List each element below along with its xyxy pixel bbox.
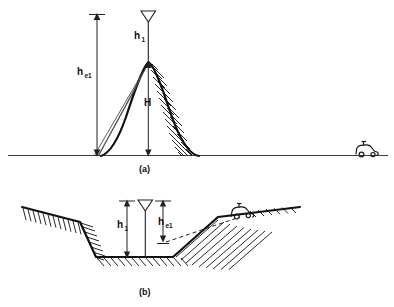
svg-text:h: h	[134, 30, 140, 41]
svg-text:h: h	[158, 216, 164, 227]
label-H-a: H	[144, 97, 151, 108]
dimension-H-a	[145, 61, 152, 157]
valley-hatch-floor	[97, 258, 188, 266]
label-he1-b: h e1	[158, 216, 173, 229]
antenna-dipole-icon-b	[138, 200, 153, 258]
panel-a-diagram: h 1 h e1 H (a)	[0, 0, 394, 180]
figure-root: h 1 h e1 H (a)	[0, 0, 394, 307]
svg-text:h: h	[77, 66, 83, 77]
label-he1-a: h e1	[77, 66, 92, 79]
label-h1-a: h 1	[134, 30, 146, 43]
panel-a-caption: (a)	[139, 164, 150, 174]
svg-text:e1: e1	[85, 72, 93, 79]
valley-hatch-right-bank	[176, 220, 272, 270]
svg-text:e1: e1	[166, 222, 174, 229]
average-terrain-slope-lines	[94, 66, 147, 156]
valley-outline	[22, 207, 300, 257]
panel-b-caption: (b)	[139, 287, 151, 297]
valley-hatch-left-upper	[23, 208, 81, 234]
dimension-he1-a	[89, 13, 105, 157]
valley-hatch-left-steep	[81, 223, 105, 260]
hill-outline	[101, 62, 199, 156]
svg-text:h: h	[117, 219, 123, 230]
mobile-receiver-car-icon-a	[356, 142, 378, 157]
svg-text:1: 1	[142, 36, 146, 43]
panel-b-diagram: h 1 h e1 (b)	[0, 180, 394, 307]
svg-text:1: 1	[125, 225, 129, 232]
